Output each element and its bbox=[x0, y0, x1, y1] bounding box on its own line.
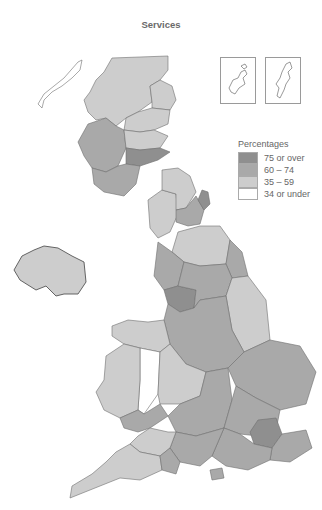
region-isle-of-wight bbox=[210, 468, 224, 480]
uk-choropleth-map bbox=[0, 0, 322, 510]
legend-swatch bbox=[238, 152, 258, 164]
legend-title: Percentages bbox=[238, 139, 310, 149]
map-legend: Percentages 75 or over 60 – 74 35 – 59 3… bbox=[238, 139, 310, 200]
legend-item: 34 or under bbox=[238, 188, 310, 200]
legend-label: 60 – 74 bbox=[264, 165, 294, 175]
legend-swatch bbox=[238, 188, 258, 200]
legend-item: 75 or over bbox=[238, 152, 310, 164]
legend-swatch bbox=[238, 164, 258, 176]
legend-item: 35 – 59 bbox=[238, 176, 310, 188]
region-cumbria bbox=[148, 190, 178, 238]
region-strathclyde bbox=[78, 118, 126, 172]
legend-item: 60 – 74 bbox=[238, 164, 310, 176]
legend-label: 75 or over bbox=[264, 153, 305, 163]
region-powys bbox=[138, 348, 160, 414]
region-western-isles bbox=[38, 60, 82, 108]
region-lothian bbox=[126, 148, 170, 166]
region-grampian bbox=[150, 80, 176, 110]
legend-label: 35 – 59 bbox=[264, 177, 294, 187]
region-dyfed bbox=[96, 344, 140, 418]
legend-swatch bbox=[238, 176, 258, 188]
region-fife bbox=[124, 130, 168, 150]
legend-label: 34 or under bbox=[264, 189, 310, 199]
region-northern-ireland bbox=[14, 246, 86, 296]
